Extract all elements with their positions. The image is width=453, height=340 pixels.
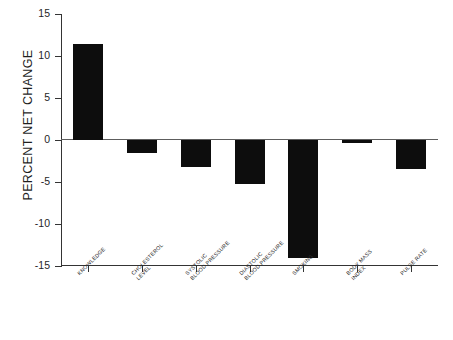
y-tick: 0 xyxy=(55,140,62,141)
y-tick-label: 5 xyxy=(44,91,50,103)
y-tick-label: 10 xyxy=(38,49,50,61)
y-tick: -10 xyxy=(55,224,62,225)
y-tick: 10 xyxy=(55,56,62,57)
bar-chart: PERCENT NET CHANGE 151050-5-10-15 KNOWLE… xyxy=(0,0,453,340)
y-tick: -5 xyxy=(55,182,62,183)
y-tick-label: -5 xyxy=(41,175,50,187)
bar xyxy=(73,44,103,140)
y-tick-label: -15 xyxy=(35,259,50,271)
bar xyxy=(288,140,318,258)
y-tick-label: 0 xyxy=(44,133,50,145)
y-tick: 5 xyxy=(55,98,62,99)
bar xyxy=(396,140,426,169)
bar xyxy=(127,140,157,153)
bar xyxy=(181,140,211,167)
y-tick: -15 xyxy=(55,266,62,267)
plot-area: 151050-5-10-15 xyxy=(61,14,438,266)
y-axis-title: PERCENT NET CHANGE xyxy=(21,25,35,225)
y-tick-label: 15 xyxy=(38,7,50,19)
y-tick: 15 xyxy=(55,14,62,15)
y-tick-label: -10 xyxy=(35,217,50,229)
bar xyxy=(235,140,265,184)
bar xyxy=(342,140,372,143)
